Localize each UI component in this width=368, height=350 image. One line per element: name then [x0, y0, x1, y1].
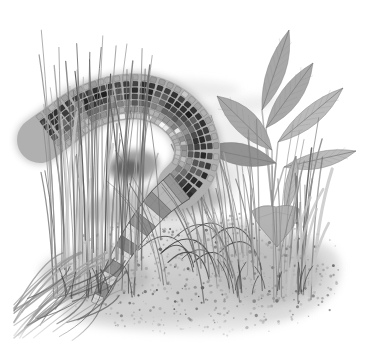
illustration [0, 0, 368, 350]
bottom-fade [0, 316, 368, 350]
lizard-illustration-canvas [0, 0, 368, 350]
